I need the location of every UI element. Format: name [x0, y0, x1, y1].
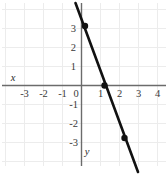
coordinate-plane-plot: -3 -2 -1 0 1 2 3 4 3 2 1 -1 -2 -3 x y [0, 0, 167, 178]
x-tick-label-3: 3 [136, 88, 141, 99]
x-axis-label: x [10, 72, 16, 83]
y-tick-label-neg1: -1 [69, 99, 78, 110]
data-point-x-intercept [101, 82, 107, 88]
y-tick-label-1: 1 [71, 61, 76, 72]
y-tick-label-2: 2 [71, 42, 76, 53]
x-tick-label-neg1: -1 [58, 88, 67, 99]
x-tick-label-4: 4 [155, 88, 161, 99]
x-tick-label-neg2: -2 [39, 88, 48, 99]
x-tick-label-neg3: -3 [20, 88, 29, 99]
y-tick-label-neg3: -3 [69, 137, 78, 148]
graph-figure: -3 -2 -1 0 1 2 3 4 3 2 1 -1 -2 -3 x y [0, 0, 167, 178]
x-tick-label-1: 1 [98, 88, 103, 99]
x-tick-label-2: 2 [117, 88, 122, 99]
data-point-y-intercept [82, 23, 88, 29]
data-point-lower [121, 135, 127, 141]
y-tick-label-3: 3 [71, 23, 76, 34]
x-tick-label-0: 0 [73, 88, 78, 99]
y-axis-label: y [84, 146, 90, 157]
y-tick-label-neg2: -2 [69, 118, 78, 129]
